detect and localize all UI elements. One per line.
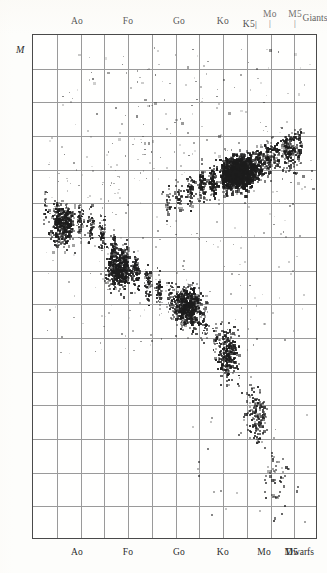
data-point [254, 171, 256, 173]
data-point [198, 461, 200, 463]
data-point [234, 341, 236, 343]
data-point [218, 203, 220, 205]
data-point [67, 190, 69, 192]
data-point [158, 296, 160, 298]
data-point [231, 149, 233, 151]
data-point [112, 212, 114, 214]
data-point [180, 190, 182, 192]
data-point [227, 329, 229, 331]
data-point [250, 89, 252, 91]
data-point [219, 171, 222, 174]
data-point [60, 222, 63, 225]
data-point [170, 226, 172, 228]
data-point [221, 321, 223, 323]
data-point [249, 186, 252, 189]
data-point [166, 201, 168, 203]
data-point [74, 295, 76, 297]
data-point [253, 391, 255, 393]
data-point [63, 243, 65, 245]
data-point [178, 294, 180, 296]
data-point [215, 159, 217, 161]
data-point [224, 341, 226, 343]
data-point [159, 239, 161, 241]
data-point [93, 223, 95, 225]
data-point [259, 392, 261, 394]
gridline-horizontal [33, 338, 316, 339]
data-point [120, 270, 122, 272]
data-point [167, 213, 170, 216]
data-point [292, 270, 294, 272]
data-point [182, 265, 184, 267]
top-axis-tickmark: | [263, 20, 277, 27]
data-point [249, 430, 252, 433]
data-point [249, 402, 251, 404]
data-point [254, 415, 256, 417]
data-point [220, 240, 222, 242]
data-point [205, 324, 208, 327]
data-point [166, 208, 168, 210]
gridline-horizontal [33, 271, 316, 272]
data-point [144, 149, 146, 151]
data-point [278, 266, 280, 268]
data-point [114, 286, 116, 288]
data-point [113, 183, 115, 185]
data-point [264, 180, 267, 183]
data-point [200, 337, 202, 339]
data-point [75, 124, 77, 126]
data-point [236, 354, 238, 356]
data-point [249, 414, 251, 416]
data-point [91, 204, 94, 207]
data-point [282, 169, 285, 172]
data-point [120, 293, 122, 295]
data-point [185, 309, 187, 311]
data-point [257, 403, 259, 405]
data-point [228, 379, 230, 381]
data-point [73, 254, 75, 256]
data-point [231, 172, 233, 174]
data-point [111, 283, 113, 285]
data-point [145, 291, 148, 294]
data-point [141, 82, 144, 85]
data-point [227, 158, 230, 161]
data-point [188, 155, 190, 157]
bottom-axis-tick-go: Go [173, 547, 185, 557]
data-point [82, 174, 84, 176]
data-point [281, 155, 284, 158]
data-point [148, 284, 151, 287]
data-point [194, 307, 197, 310]
data-point [275, 496, 278, 499]
data-point [256, 442, 258, 444]
data-point [259, 437, 261, 439]
data-point [71, 214, 73, 216]
data-point [262, 294, 264, 296]
data-point [94, 245, 96, 247]
data-point [257, 78, 259, 80]
data-point [279, 166, 281, 168]
gridline-horizontal [33, 506, 316, 507]
data-point [182, 306, 184, 308]
data-point [211, 514, 213, 516]
data-point [196, 283, 198, 285]
data-point [102, 278, 104, 280]
data-point [273, 147, 276, 150]
data-point [278, 461, 280, 463]
data-point [292, 159, 294, 161]
data-point [125, 212, 127, 214]
data-point [119, 132, 121, 134]
data-point [294, 133, 296, 135]
data-point [236, 176, 239, 179]
data-point [237, 368, 239, 370]
data-point [209, 167, 211, 169]
data-point [209, 172, 212, 175]
data-point [233, 370, 235, 372]
data-point [57, 208, 60, 211]
data-point [237, 162, 240, 165]
data-point [127, 282, 130, 285]
data-point [89, 219, 91, 221]
data-point [76, 169, 78, 171]
data-point [215, 182, 217, 184]
data-point [192, 322, 194, 324]
data-point [227, 150, 229, 152]
data-point [134, 292, 137, 295]
data-point [273, 224, 275, 226]
